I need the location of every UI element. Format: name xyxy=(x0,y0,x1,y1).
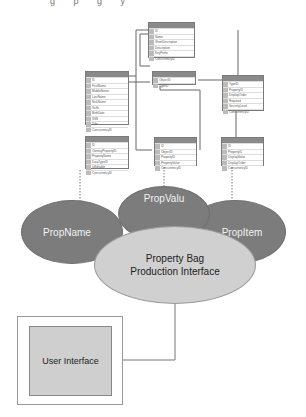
field: ID xyxy=(91,143,95,148)
field: ID xyxy=(91,78,95,83)
field: BirthDate xyxy=(91,111,105,116)
propvalu-label: PropValu xyxy=(144,193,184,204)
field: SecurityLevel xyxy=(228,104,247,109)
propname-label: PropName xyxy=(43,227,91,238)
field: Suffix xyxy=(91,106,99,111)
field: LastName xyxy=(91,95,106,100)
user-interface-box: User Interface xyxy=(29,326,112,396)
field: ConcurrencyID xyxy=(91,171,112,176)
field: DisplayOrder xyxy=(228,93,247,98)
field: PropertyID xyxy=(160,155,175,160)
field: ObjectID xyxy=(160,150,173,155)
field: TypeID xyxy=(228,82,239,87)
field: ShortDescription xyxy=(154,40,177,45)
field: PropertyName xyxy=(91,154,111,159)
field: ConcurrencyID xyxy=(154,57,175,62)
interface-label-line2: Production Interface xyxy=(130,265,220,278)
user-interface-label: User Interface xyxy=(42,356,99,366)
table-propvalu: ID ObjectID PropertyID PropertyValue Con… xyxy=(154,137,197,166)
ellipse-property-bag-interface: Property Bag Production Interface xyxy=(94,226,256,304)
field: DisplayValue xyxy=(227,155,245,160)
table-left: ID FirstName MiddleName LastName NickNam… xyxy=(85,71,129,125)
field: Name xyxy=(154,35,163,40)
field: TypeID xyxy=(158,84,169,89)
field: KeyPrefix xyxy=(154,51,168,56)
field: FirstName xyxy=(91,84,106,89)
field: ObjectID xyxy=(158,78,171,83)
field: NickName xyxy=(91,100,106,105)
field: PropertyValue xyxy=(160,161,180,166)
table-propitem: ID PropertyID DisplayValue DisplayOrder … xyxy=(221,137,264,166)
field: ConcurrencyID xyxy=(160,166,181,171)
field: MiddleName xyxy=(91,89,109,94)
table-propname: ID OwningPropertyID PropertyName DataTyp… xyxy=(85,136,129,169)
interface-label-line1: Property Bag xyxy=(130,252,220,265)
field: ConcurrencyID xyxy=(228,110,249,115)
table-top: ID Name ShortDescription Description Key… xyxy=(148,22,195,58)
field: SSN xyxy=(91,117,98,122)
table-right: TypeID PropertyID DisplayOrder Required … xyxy=(222,75,264,111)
field: Description xyxy=(154,46,170,51)
field: ID xyxy=(154,29,158,34)
field: DisplayOrder xyxy=(227,161,246,166)
field: PropertyID xyxy=(227,150,242,155)
table-mid: ObjectID TypeID xyxy=(152,71,196,85)
diagram-canvas: g p g y ID Name ShortDescript xyxy=(0,0,306,417)
field: ConcurrencyID xyxy=(91,128,112,133)
field: IsEditable xyxy=(91,165,105,170)
field: PropertyID xyxy=(228,88,243,93)
field: ConcurrencyID xyxy=(227,166,248,171)
field: ID xyxy=(160,144,164,149)
field: ID xyxy=(227,144,231,149)
field: OwningPropertyID xyxy=(91,149,117,154)
field: DataTypeID xyxy=(91,160,108,165)
field: Required xyxy=(228,99,241,104)
field: Title xyxy=(91,122,98,127)
